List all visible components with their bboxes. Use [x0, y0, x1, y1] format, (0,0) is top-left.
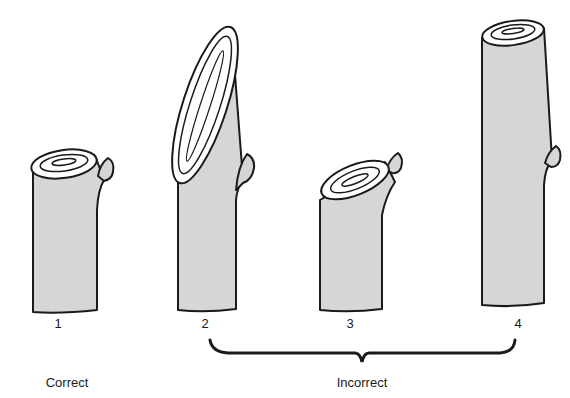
stem-3-incorrect-cut [316, 153, 402, 312]
stem-number-3: 3 [346, 316, 353, 331]
incorrect-group-brace [210, 340, 515, 362]
stem-number-4: 4 [514, 316, 521, 331]
stem-1-correct-cut [29, 146, 113, 313]
incorrect-label: Incorrect [337, 375, 388, 390]
correct-label: Correct [46, 375, 89, 390]
stem-4-incorrect-cut [481, 17, 561, 306]
stem-number-2: 2 [201, 316, 208, 331]
stem-2-incorrect-cut [159, 20, 254, 311]
stem-number-1: 1 [54, 316, 61, 331]
pruning-cuts-diagram [0, 0, 570, 398]
